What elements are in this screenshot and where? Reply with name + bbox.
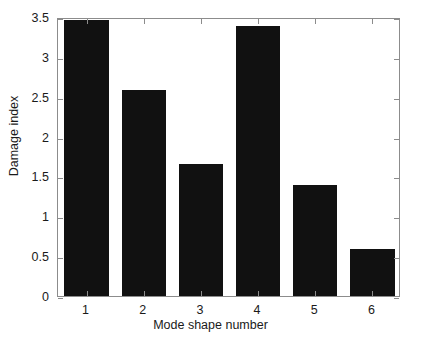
y-tick-right-1 <box>394 218 399 219</box>
y-tick-right-0 <box>394 298 399 299</box>
y-tick-right-2.5 <box>394 99 399 100</box>
y-tick-right-3 <box>394 59 399 60</box>
y-tick-right-0.5 <box>394 258 399 259</box>
y-tick-label-3: 3 <box>5 52 49 65</box>
y-tick-label-3.5: 3.5 <box>5 12 49 25</box>
bar-chart-figure: 00.511.522.533.5 123456 Damage index Mod… <box>0 0 421 340</box>
bar-1 <box>64 20 108 296</box>
y-tick-right-3.5 <box>394 19 399 20</box>
bar-6 <box>350 249 394 296</box>
y-tick-3.5 <box>58 19 63 20</box>
x-tick-top-5 <box>315 19 316 24</box>
x-tick-label-4: 4 <box>237 304 277 317</box>
plot-area <box>57 18 400 297</box>
x-tick-6 <box>372 291 373 296</box>
x-tick-top-2 <box>144 19 145 24</box>
x-tick-4 <box>258 291 259 296</box>
bar-2 <box>122 90 166 296</box>
x-tick-label-1: 1 <box>66 304 106 317</box>
y-tick-2.5 <box>58 99 63 100</box>
y-tick-1 <box>58 218 63 219</box>
y-tick-3 <box>58 59 63 60</box>
y-tick-right-2 <box>394 139 399 140</box>
bar-5 <box>293 185 337 296</box>
y-axis-title: Damage index <box>7 76 21 196</box>
x-tick-2 <box>144 291 145 296</box>
x-tick-top-4 <box>258 19 259 24</box>
y-tick-label-0.5: 0.5 <box>5 251 49 264</box>
y-tick-label-1: 1 <box>5 211 49 224</box>
y-tick-2 <box>58 139 63 140</box>
y-tick-right-1.5 <box>394 178 399 179</box>
bar-4 <box>236 26 280 296</box>
x-tick-label-3: 3 <box>180 304 220 317</box>
bars-layer <box>58 19 399 296</box>
x-tick-top-6 <box>372 19 373 24</box>
y-tick-0.5 <box>58 258 63 259</box>
bar-3 <box>179 164 223 296</box>
x-tick-top-3 <box>201 19 202 24</box>
y-tick-1.5 <box>58 178 63 179</box>
x-tick-label-6: 6 <box>351 304 391 317</box>
x-tick-3 <box>201 291 202 296</box>
x-axis-title: Mode shape number <box>0 318 421 332</box>
x-tick-1 <box>87 291 88 296</box>
y-tick-0 <box>58 298 63 299</box>
x-tick-label-2: 2 <box>123 304 163 317</box>
x-tick-top-1 <box>87 19 88 24</box>
x-tick-5 <box>315 291 316 296</box>
x-tick-label-5: 5 <box>294 304 334 317</box>
y-tick-label-0: 0 <box>5 291 49 304</box>
